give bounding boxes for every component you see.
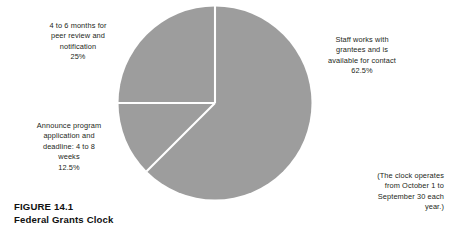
figure-caption: FIGURE 14.1 Federal Grants Clock [14, 201, 234, 226]
figure-title: Federal Grants Clock [14, 214, 234, 227]
pie-note-clock-period-text: (The clock operates from October 1 to Se… [377, 171, 444, 212]
pie-label-staff-text: Staff works with grantees and is availab… [328, 35, 396, 65]
figure-container: 4 to 6 months for peer review and notifi… [0, 0, 449, 238]
pie-label-peer-review-percent: 25% [18, 52, 138, 63]
pie-label-announce: Announce program application and deadlin… [8, 110, 130, 184]
pie-chart [118, 6, 312, 200]
pie-label-announce-text: Announce program application and deadlin… [37, 121, 101, 162]
pie-label-announce-percent: 12.5% [8, 163, 130, 174]
pie-note-clock-period: (The clock operates from October 1 to Se… [322, 160, 444, 213]
figure-number: FIGURE 14.1 [14, 201, 234, 214]
pie-label-staff-percent: 62.5% [300, 66, 424, 77]
pie-label-peer-review: 4 to 6 months for peer review and notifi… [18, 10, 138, 74]
pie-chart-svg [118, 6, 312, 200]
pie-label-peer-review-text: 4 to 6 months for peer review and notifi… [49, 21, 106, 51]
pie-label-staff: Staff works with grantees and is availab… [300, 24, 424, 88]
